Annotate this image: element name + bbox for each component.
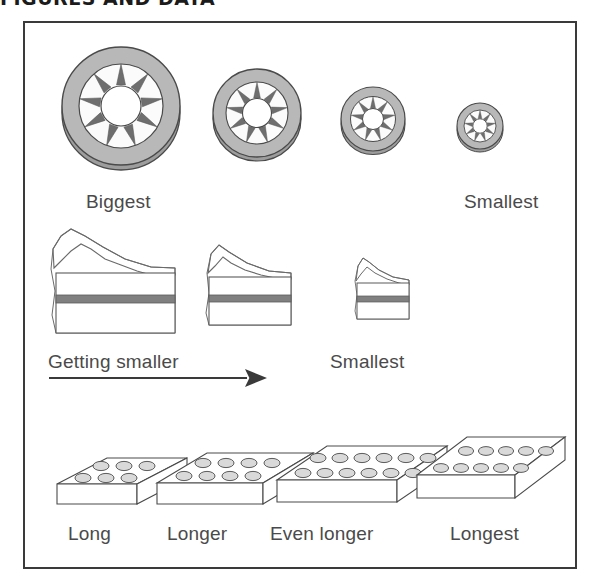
label-brick-longer: Longer (167, 523, 227, 545)
bricks-row (57, 437, 565, 504)
label-wheel-smallest: Smallest (464, 191, 538, 213)
label-brick-longest: Longest (450, 523, 519, 545)
wheel-smallest (457, 103, 503, 153)
wheel-second (213, 69, 301, 165)
wheels-row (62, 47, 503, 171)
cake-slice-largest (51, 229, 175, 333)
page-title: FIGURES AND DATA (0, 0, 600, 9)
page-title-text: FIGURES AND DATA (0, 0, 600, 9)
label-wheel-biggest: Biggest (86, 191, 151, 213)
illustration-frame: Biggest Smallest Getting smaller Smalles… (23, 21, 577, 569)
cake-slice-smallest (355, 258, 409, 319)
label-cake-smallest: Smallest (330, 351, 404, 373)
illustration-canvas (25, 23, 575, 567)
label-getting-smaller: Getting smaller (48, 351, 179, 373)
label-brick-even-longer: Even longer (270, 523, 374, 545)
wheel-biggest (62, 47, 180, 171)
cake-slice-medium (206, 245, 291, 325)
label-brick-long: Long (68, 523, 111, 545)
wheel-third (341, 87, 405, 158)
